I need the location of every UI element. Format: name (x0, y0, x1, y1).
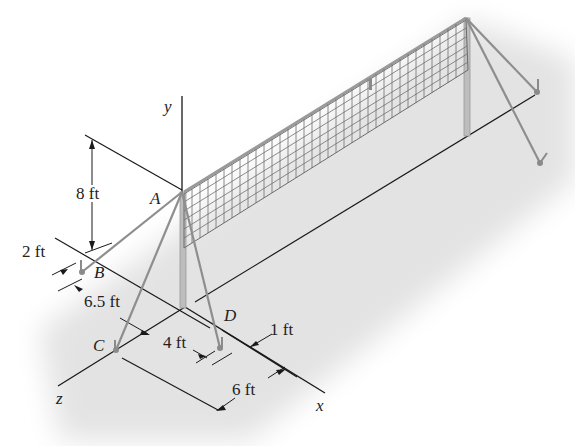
point-D-label: D (224, 307, 236, 324)
x-axis-label: x (316, 397, 324, 414)
net-tag (369, 78, 372, 90)
ground-shading (40, 20, 575, 440)
point-B-label: B (94, 264, 104, 281)
arrow-6.5ft (74, 285, 83, 292)
arrow-up (89, 140, 95, 149)
diagram-canvas (0, 0, 575, 446)
dim-6ft-label: 6 ft (232, 381, 255, 398)
dim-6.5ft-label: 6.5 ft (84, 293, 120, 310)
dim-1ft-label: 1 ft (270, 321, 293, 338)
arrow-down (89, 241, 95, 250)
point-A-label: A (150, 190, 160, 207)
y-axis-label: y (164, 98, 172, 115)
point-C-label: C (93, 337, 104, 354)
left-post (180, 192, 186, 308)
dim-2ft-label: 2 ft (22, 243, 45, 260)
dim-4ft-label: 4 ft (163, 334, 186, 351)
arrow-2ft (60, 269, 68, 275)
ext-line-top (85, 135, 182, 190)
volleyball-net-diagram: y z x A B C D 8 ft 2 ft 6.5 ft 4 ft 1 ft… (0, 0, 575, 446)
dim-8ft-label: 8 ft (76, 185, 99, 202)
z-axis-label: z (56, 390, 63, 407)
